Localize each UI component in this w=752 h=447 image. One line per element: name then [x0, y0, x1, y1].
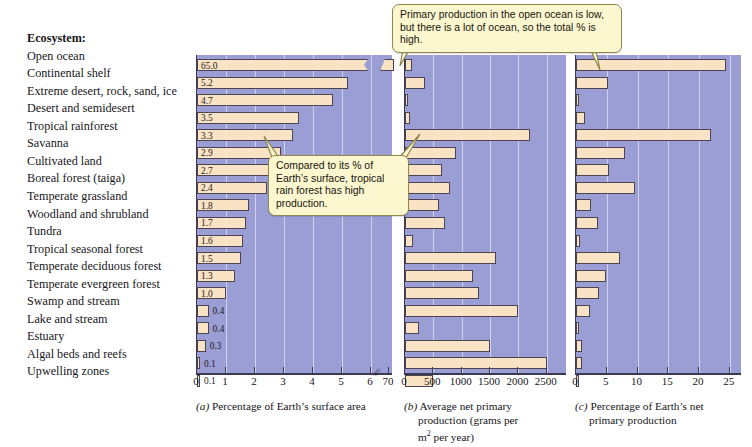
axis-tick — [729, 367, 730, 373]
axis-tick-label: 500 — [424, 375, 441, 387]
ecosystem-label: Tropical rainforest — [27, 118, 196, 136]
bar — [576, 94, 579, 106]
plot-area-b — [404, 55, 566, 373]
gridline — [462, 55, 463, 373]
bar — [405, 305, 518, 317]
callout-rainforest-line2: Earth’s surface, tropical — [276, 173, 401, 186]
bar — [197, 94, 333, 106]
bar — [197, 322, 209, 334]
callout-rainforest-line3: rain forest has high — [276, 185, 401, 198]
ecosystem-label: Open ocean — [27, 48, 196, 66]
bar — [576, 147, 625, 159]
axis-tick-label: 20 — [693, 375, 704, 387]
bar — [405, 270, 473, 282]
caption-a-tag: (a) — [196, 400, 209, 412]
bar-value-label: 5.2 — [201, 77, 213, 89]
bar-value-label: 4.7 — [201, 95, 213, 107]
bar-value-label: 1.3 — [201, 270, 213, 282]
bar-value-label: 2.4 — [201, 182, 213, 194]
axis-tick-label: 10 — [631, 375, 642, 387]
ecosystem-label: Temperate deciduous forest — [27, 258, 196, 276]
ecosystem-label: Lake and stream — [27, 311, 196, 329]
axis-tick-label: 2000 — [506, 375, 528, 387]
axis-tick — [312, 367, 313, 373]
bar — [405, 182, 450, 194]
axis-tick — [489, 367, 490, 373]
ecosystem-label: Upwelling zones — [27, 363, 196, 381]
bar — [405, 357, 547, 369]
axis-tick-label: 1500 — [478, 375, 500, 387]
caption-b-line2: production (grams per — [404, 414, 569, 428]
callout-rainforest: Compared to its % of Earth’s surface, tr… — [268, 155, 409, 216]
caption-b-unit-rest: per year) — [431, 431, 474, 443]
bar-value-label: 3.3 — [201, 130, 213, 142]
callout-open-ocean: Primary production in the open ocean is … — [392, 4, 622, 53]
bar-value-label: 1.5 — [201, 253, 213, 265]
ecosystem-label: Savanna — [27, 135, 196, 153]
gridline — [730, 55, 731, 373]
gridline — [490, 55, 491, 373]
ecosystem-label: Cultivated land — [27, 153, 196, 171]
bar — [576, 340, 582, 352]
callout-open-ocean-line1: Primary production in the open ocean is … — [400, 9, 614, 22]
axis-tick — [225, 367, 226, 373]
x-axis-c: 0510152025 — [575, 373, 741, 399]
axis-tick-label: 5 — [338, 375, 344, 387]
bar — [576, 305, 590, 317]
caption-c-line1: Percentage of Earth’s net — [590, 400, 703, 412]
bar-value-label: 0.1 — [204, 358, 216, 370]
ecosystem-label: Boreal forest (taiga) — [27, 170, 196, 188]
bar — [576, 357, 582, 369]
axis-tick-label: 70 — [383, 375, 394, 387]
bar — [405, 287, 479, 299]
axis-tick — [254, 367, 255, 373]
bar — [197, 357, 200, 369]
bar — [405, 217, 445, 229]
caption-c-line2: primary production — [575, 414, 750, 428]
bar-value-label: 0.3 — [210, 340, 222, 352]
bar-value-label: 65.0 — [201, 60, 217, 72]
axis-tick — [606, 367, 607, 373]
ecosystem-label: Continental shelf — [27, 65, 196, 83]
bar — [197, 305, 209, 317]
x-axis-a: 012345670 — [196, 373, 392, 399]
bar — [405, 252, 496, 264]
axis-tick — [370, 367, 371, 373]
callout-rainforest-line1: Compared to its % of — [276, 160, 401, 173]
bar-value-label: 2.7 — [201, 165, 213, 177]
caption-c-tag: (c) — [575, 400, 588, 412]
bar — [197, 59, 375, 71]
axis-tick-label: 5 — [603, 375, 609, 387]
axis-tick-label: 1000 — [450, 375, 472, 387]
gridline — [607, 55, 608, 373]
caption-b-line3: m2 per year) — [404, 427, 569, 444]
axis-tick-label: 2500 — [535, 375, 557, 387]
gridline — [433, 55, 434, 373]
bar-value-label: 1.7 — [201, 217, 213, 229]
ecosystem-label: Tundra — [27, 223, 196, 241]
axis-tick — [637, 367, 638, 373]
bar — [576, 182, 635, 194]
axis-tick-label: 15 — [662, 375, 673, 387]
caption-a-text: Percentage of Earth’s surface area — [212, 400, 366, 412]
bar — [405, 235, 413, 247]
bar — [405, 77, 425, 89]
bar — [405, 322, 419, 334]
bar — [576, 129, 711, 141]
axis-tick-label: 25 — [723, 375, 734, 387]
axis-tick-label: 0 — [193, 375, 199, 387]
bar-value-label: 0.4 — [213, 305, 225, 317]
axis-tick — [461, 367, 462, 373]
ecosystem-label: Extreme desert, rock, sand, ice — [27, 83, 196, 101]
bar — [405, 94, 408, 106]
axis-tick — [341, 367, 342, 373]
bar — [576, 270, 606, 282]
ecosystem-label: Estuary — [27, 328, 196, 346]
caption-b: (b) Average net primary production (gram… — [404, 400, 569, 445]
bar-value-label: 1.6 — [201, 235, 213, 247]
gridline — [668, 55, 669, 373]
bar-value-label: 1.0 — [201, 288, 213, 300]
bar — [576, 199, 591, 211]
axis-tick — [196, 367, 197, 373]
callout-rainforest-line4: production. — [276, 198, 401, 211]
